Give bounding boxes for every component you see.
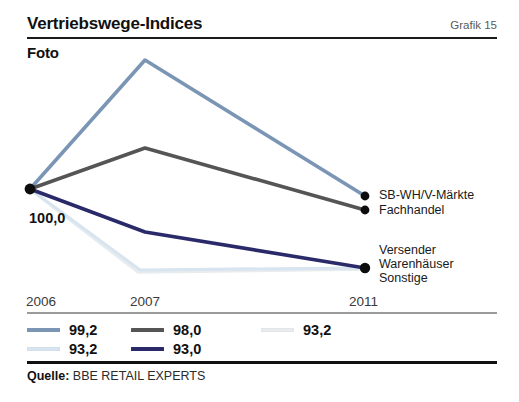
series-line-versender (30, 189, 365, 268)
series-line-fachhandel (30, 148, 365, 210)
chart-page: Vertriebswege-Indices Grafik 15 Foto 100… (0, 0, 519, 402)
series-label-fachhandel: Fachhandel (379, 203, 444, 217)
endpoint-marker-fachhandel (361, 206, 370, 215)
legend-swatch-icon-0 (27, 328, 60, 332)
legend-value-2: 93,2 (303, 322, 331, 338)
series-line-sb-wh (30, 60, 365, 196)
legend-value-3: 93,2 (69, 341, 97, 357)
chart-legend: 99,2 98,0 93,2 93,2 93,0 (27, 320, 497, 358)
legend-row-1: 99,2 98,0 93,2 (27, 320, 497, 339)
endpoint-marker-sb-wh (361, 192, 370, 201)
x-axis-tick-2011: 2011 (349, 294, 378, 309)
legend-row-2: 93,2 93,0 (27, 339, 497, 358)
legend-item-2: 93,2 (261, 322, 391, 338)
series-line-warenhaeuser (30, 189, 365, 270)
source-line: Quelle: BBE RETAIL EXPERTS (27, 369, 205, 383)
source-text: BBE RETAIL EXPERTS (73, 369, 205, 383)
endpoint-marker-versender (360, 263, 370, 273)
x-axis-tick-2007: 2007 (130, 294, 160, 309)
source-label: Quelle: (27, 369, 69, 383)
title-divider (27, 37, 497, 39)
figure-number: Grafik 15 (450, 19, 497, 31)
legend-swatch-icon-3 (27, 347, 60, 351)
legend-item-3: 93,2 (27, 341, 131, 357)
legend-item-1: 98,0 (131, 322, 261, 338)
legend-value-1: 98,0 (173, 322, 201, 338)
legend-swatch-icon-1 (131, 328, 164, 332)
series-label-versender: Versender (379, 243, 436, 257)
series-line-sonstige (30, 189, 365, 272)
x-axis-line (27, 312, 497, 314)
legend-swatch-icon-4 (131, 347, 164, 351)
page-title: Vertriebswege-Indices (27, 14, 202, 34)
series-label-sonstige: Sonstige (379, 271, 428, 285)
chart-subtitle: Foto (27, 44, 59, 61)
legend-item-0: 99,2 (27, 322, 131, 338)
chart-header: Vertriebswege-Indices Grafik 15 (27, 14, 497, 34)
legend-swatch-icon-2 (261, 328, 294, 332)
footer-divider (27, 361, 497, 364)
legend-value-4: 93,0 (173, 341, 201, 357)
series-label-warenhaeuser: Warenhäuser (379, 257, 454, 271)
legend-value-0: 99,2 (69, 322, 97, 338)
series-label-sb-wh: SB-WH/V-Märkte (379, 188, 474, 202)
legend-item-4: 93,0 (131, 341, 261, 357)
x-axis-tick-2006: 2006 (26, 294, 56, 309)
origin-marker (25, 184, 36, 195)
baseline-value-label: 100,0 (29, 210, 65, 226)
